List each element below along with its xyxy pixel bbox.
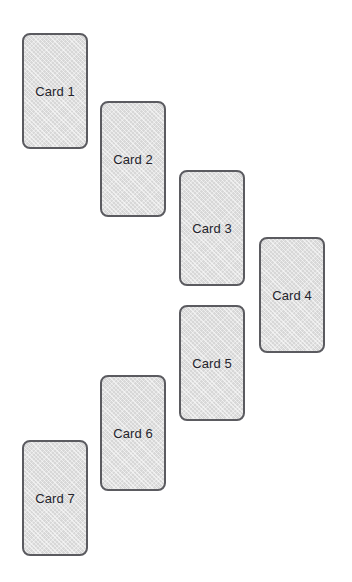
- card-label: Card 6: [113, 427, 153, 440]
- card-item[interactable]: Card 7: [22, 440, 88, 556]
- card-label: Card 7: [35, 492, 75, 505]
- card-item[interactable]: Card 4: [259, 237, 325, 353]
- card-item[interactable]: Card 5: [179, 305, 245, 421]
- card-item[interactable]: Card 3: [179, 170, 245, 286]
- card-label: Card 5: [192, 357, 232, 370]
- card-stage: Card 1 Card 2 Card 3 Card 4 Card 5 Card …: [0, 0, 352, 582]
- card-label: Card 3: [192, 222, 232, 235]
- card-item[interactable]: Card 2: [100, 101, 166, 217]
- card-label: Card 4: [272, 289, 312, 302]
- card-label: Card 2: [113, 153, 153, 166]
- card-label: Card 1: [35, 85, 75, 98]
- card-item[interactable]: Card 6: [100, 375, 166, 491]
- card-item[interactable]: Card 1: [22, 33, 88, 149]
